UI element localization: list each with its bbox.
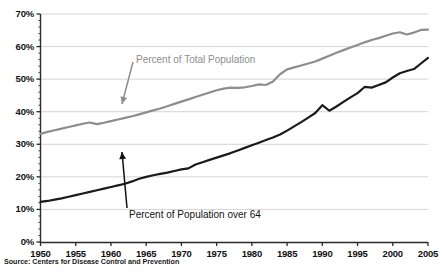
- y-axis-tick-label: 10%: [0, 203, 34, 214]
- x-axis-tick-label: 1995: [338, 248, 378, 259]
- y-axis-tick-label: 60%: [0, 41, 34, 52]
- annotation-arrows: [119, 62, 133, 208]
- y-axis-tick-label: 30%: [0, 138, 34, 149]
- y-axis-tick-label: 40%: [0, 106, 34, 117]
- x-axis-tick-label: 1975: [197, 248, 237, 259]
- x-axis-tick-label: 1980: [232, 248, 272, 259]
- y-axis-tick-label: 0%: [0, 236, 34, 247]
- annotation-total-population: Percent of Total Population: [136, 54, 255, 65]
- x-axis-tick-label: 2000: [373, 248, 413, 259]
- x-axis-tick-label: 2005: [408, 248, 443, 259]
- x-axis-tick-label: 1990: [302, 248, 342, 259]
- y-axis-tick-label: 20%: [0, 171, 34, 182]
- y-axis-tick-label: 50%: [0, 73, 34, 84]
- y-axis-tick-label: 70%: [0, 8, 34, 19]
- annotation-over-64: Percent of Population over 64: [129, 209, 261, 220]
- source-note: Source: Centers for Disease Control and …: [4, 257, 179, 266]
- x-axis-tick-label: 1985: [267, 248, 307, 259]
- gridlines: [41, 14, 429, 209]
